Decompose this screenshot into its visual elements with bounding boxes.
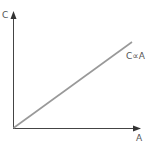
x-axis-arrow-icon [133,126,141,132]
x-axis-label: A [136,133,143,142]
y-axis-label: C [2,10,8,20]
line-label: C∝A [126,51,146,61]
proportional-line [14,42,133,128]
y-axis-arrow-icon [11,11,17,19]
proportionality-chart: C A C∝A [0,0,148,142]
